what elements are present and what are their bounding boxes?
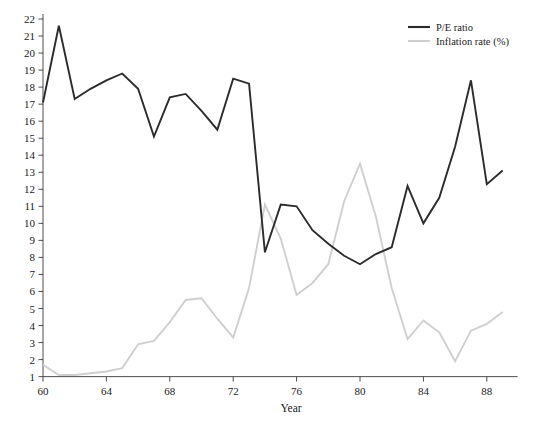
y-axis-tick-label: 7 [30, 268, 36, 280]
y-axis-tick-label: 6 [30, 285, 36, 297]
y-axis-tick-label: 1 [30, 371, 36, 383]
y-axis-tick-label: 8 [30, 251, 36, 263]
y-axis-tick-label: 21 [24, 30, 35, 42]
y-axis-tick-label: 5 [30, 303, 36, 315]
x-axis-tick-label: 72 [228, 385, 239, 397]
x-axis-tick-label: 76 [291, 385, 303, 397]
series-line-inflation-rate [43, 164, 503, 375]
line-chart: 12345678910111213141516171819202122 6064… [0, 0, 540, 431]
y-axis-tick-label: 2 [30, 354, 36, 366]
y-axis-tick-label: 15 [24, 132, 36, 144]
x-axis-tick-label: 60 [38, 385, 50, 397]
x-axis-title: Year [280, 402, 301, 414]
chart-legend: P/E ratioInflation rate (%) [408, 22, 509, 48]
y-axis-tick-label: 22 [24, 13, 35, 25]
legend-label-1: P/E ratio [436, 22, 473, 33]
y-axis-tick-label: 18 [24, 81, 36, 93]
y-axis-tick-label: 10 [24, 217, 36, 229]
y-axis-tick-label: 16 [24, 115, 36, 127]
data-series-group [43, 26, 503, 375]
x-axis-tick-label: 64 [101, 385, 113, 397]
x-axis-tick-label: 84 [418, 385, 430, 397]
y-axis: 12345678910111213141516171819202122 [24, 13, 43, 383]
y-axis-tick-label: 19 [24, 64, 36, 76]
y-axis-tick-label: 17 [24, 98, 36, 110]
y-axis-tick-label: 3 [30, 337, 36, 349]
x-axis-tick-label: 88 [481, 385, 493, 397]
y-axis-tick-label: 12 [24, 183, 35, 195]
y-axis-tick-label: 20 [24, 47, 36, 59]
y-axis-tick-label: 11 [24, 200, 35, 212]
series-line-p-e-ratio [43, 26, 503, 264]
x-axis-tick-label: 68 [164, 385, 176, 397]
legend-label-2: Inflation rate (%) [436, 36, 509, 48]
y-axis-tick-label: 9 [30, 234, 36, 246]
y-axis-tick-label: 13 [24, 166, 36, 178]
y-axis-tick-label: 14 [24, 149, 36, 161]
x-axis-tick-label: 80 [355, 385, 367, 397]
y-axis-tick-label: 4 [30, 320, 36, 332]
chart-container: 12345678910111213141516171819202122 6064… [0, 0, 540, 431]
x-axis: 6064687276808488 [38, 377, 518, 397]
